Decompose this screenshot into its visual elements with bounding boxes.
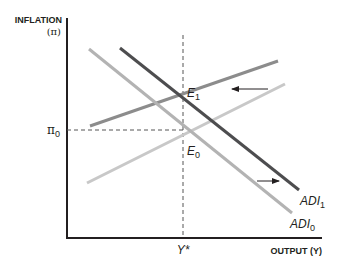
- x-tick-ystar: Y*: [177, 243, 190, 257]
- ad-as-diagram: INFLATION (π) OUTPUT (Y) π0 Y* E1 E0 ADI…: [0, 0, 340, 265]
- x-axis-title: OUTPUT (Y): [271, 246, 323, 256]
- adi0-label: ADI0: [289, 217, 315, 233]
- adi0-curve: [89, 49, 292, 213]
- e0-label: E0: [187, 144, 200, 160]
- adi1-label: ADI1: [299, 194, 325, 210]
- adi1-curve: [120, 48, 299, 190]
- y-axis-title: INFLATION: [15, 15, 62, 25]
- y-axis-symbol: (π): [47, 26, 61, 37]
- y-tick-pi0: π0: [47, 123, 60, 139]
